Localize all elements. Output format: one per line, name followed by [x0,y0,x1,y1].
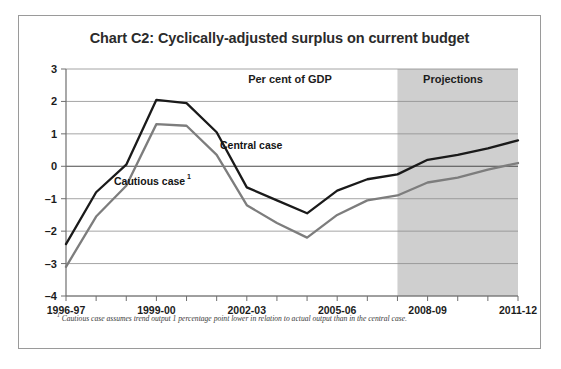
y-axis-tick-label: 3 [51,63,57,75]
plot-area-wrapper: 3210–1–2–3–4 1996-971999-002002-032005-0… [19,16,542,350]
y-axis-tick-label: –1 [45,193,57,205]
y-axis-tick-label: 0 [51,160,57,172]
y-axis-tick-label: –4 [45,290,58,302]
footnote-marker: 1 [57,312,60,318]
cautious-case-footnote-marker: 1 [187,173,191,180]
x-axis-ticks [66,296,518,301]
y-axis-tick-label: 2 [51,95,57,107]
projection-annotation-label: Projections [423,73,483,85]
series-label-central-case: Central case [220,139,283,151]
footnote-text: Cautious case assumes trend output 1 per… [62,314,407,323]
unit-annotation-label: Per cent of GDP [248,73,332,85]
y-axis-tick-labels: 3210–1–2–3–4 [45,63,66,302]
line-chart-svg: 3210–1–2–3–4 1996-971999-002002-032005-0… [19,16,542,350]
series-label-cautious-case: Cautious case [114,175,185,187]
footnote: 1 Cautious case assumes trend output 1 p… [57,312,527,323]
chart-figure-container: Chart C2: Cyclically-adjusted surplus on… [18,15,541,349]
y-axis-tick-label: –3 [45,258,57,270]
projection-shaded-region [397,69,518,296]
y-axis-tick-label: 1 [51,128,57,140]
y-axis-tick-label: –2 [45,225,57,237]
